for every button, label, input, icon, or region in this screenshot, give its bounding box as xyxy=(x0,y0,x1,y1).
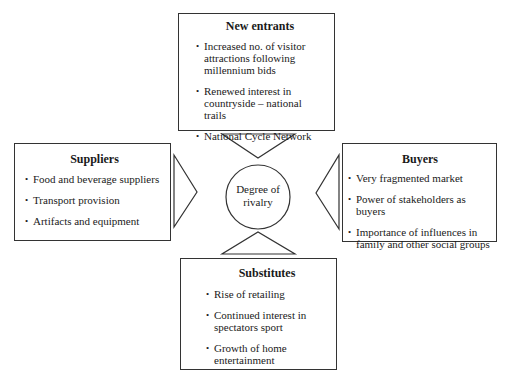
substitutes-list: Rise of retailing Continued interest in … xyxy=(206,288,328,366)
buyers-box: Buyers Very fragmented market Power of s… xyxy=(342,143,497,242)
list-item: Artifacts and equipment xyxy=(25,215,164,227)
list-item: Transport provision xyxy=(25,194,164,206)
center-label-line1: Degree of xyxy=(226,183,290,196)
new-entrants-title: New entrants xyxy=(196,19,324,34)
list-item: Importance of influences in family and o… xyxy=(348,226,492,250)
degree-of-rivalry-label: Degree of rivalry xyxy=(226,183,290,209)
substitutes-title: Substitutes xyxy=(206,266,328,281)
suppliers-list: Food and beverage suppliers Transport pr… xyxy=(25,173,164,227)
buyers-title: Buyers xyxy=(348,152,492,167)
list-item: Renewed interest in countryside – nation… xyxy=(196,85,324,121)
arrow-up-from-substitutes xyxy=(222,232,295,254)
new-entrants-list: Increased no. of visitor attractions fol… xyxy=(196,40,324,142)
arrow-left-from-buyers xyxy=(316,155,339,229)
center-label-line2: rivalry xyxy=(226,196,290,209)
arrow-right-from-suppliers xyxy=(174,155,197,227)
list-item: Food and beverage suppliers xyxy=(25,173,164,185)
list-item: Power of stakeholders as buyers xyxy=(348,193,492,217)
list-item: Growth of home entertainment xyxy=(206,342,328,366)
list-item: National Cycle Network xyxy=(196,130,324,142)
list-item: Rise of retailing xyxy=(206,288,328,300)
suppliers-title: Suppliers xyxy=(25,152,164,167)
substitutes-box: Substitutes Rise of retailing Continued … xyxy=(180,258,337,370)
list-item: Very fragmented market xyxy=(348,172,492,184)
suppliers-box: Suppliers Food and beverage suppliers Tr… xyxy=(14,143,171,241)
buyers-list: Very fragmented market Power of stakehol… xyxy=(348,172,492,250)
new-entrants-box: New entrants Increased no. of visitor at… xyxy=(178,13,335,131)
list-item: Continued interest in spectators sport xyxy=(206,309,328,333)
list-item: Increased no. of visitor attractions fol… xyxy=(196,40,324,76)
